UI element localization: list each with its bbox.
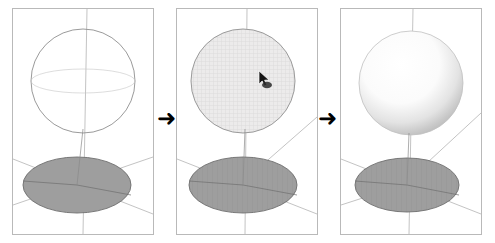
- sphere-wireframe: [31, 29, 135, 133]
- step-arrow-2-glyph: ➜: [318, 107, 337, 130]
- sphere-shaded: [359, 31, 463, 135]
- wireframe-sphere-panel: [12, 8, 154, 235]
- selected-sphere-panel: [176, 8, 318, 235]
- step-arrow-2: ➜: [313, 104, 341, 132]
- shaded-sphere-panel: [340, 8, 482, 235]
- figure-canvas: ➜: [0, 0, 495, 243]
- ground-ellipse: [355, 133, 459, 212]
- step-arrow-1-glyph: ➜: [157, 107, 176, 130]
- sphere-selected[interactable]: [191, 29, 295, 133]
- ground-ellipse: [189, 129, 297, 213]
- ground-ellipse: [23, 129, 131, 213]
